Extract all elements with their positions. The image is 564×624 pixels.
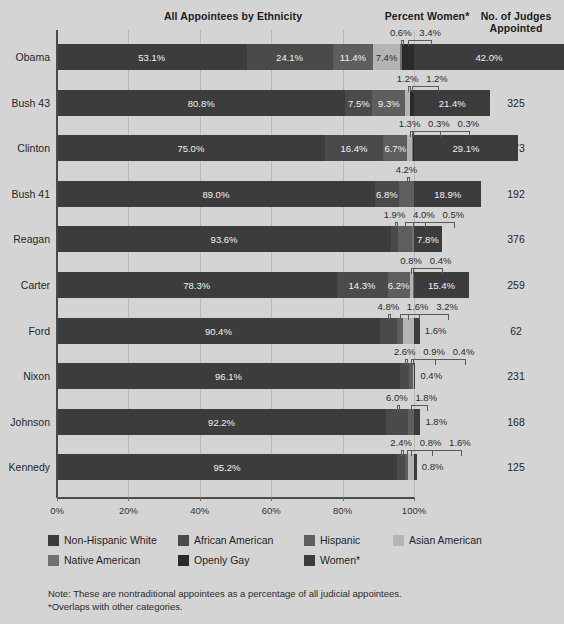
women-bar: 29.1% [414, 135, 518, 161]
women-bar: 15.4% [414, 272, 469, 298]
bar-segment-value: 14.3% [337, 280, 388, 291]
legend-swatch-icon [178, 535, 189, 546]
bar-segment-value: 24.1% [247, 52, 333, 63]
callout-leader-line [411, 450, 462, 456]
callout-leader-line [413, 131, 470, 137]
women-bar-value: 21.4% [414, 97, 490, 108]
bar-segment [399, 181, 414, 207]
bar-segment-value: 75.0% [57, 143, 325, 154]
bar-segment-value: 16.4% [325, 143, 384, 154]
bar-segment [386, 409, 407, 435]
x-axis-line [57, 497, 415, 499]
segment-callout-label: 1.2% [424, 73, 450, 84]
callout-leader-line [413, 268, 442, 274]
segment-callout-label: 2.6% [392, 346, 418, 357]
women-bar-value: 18.9% [414, 188, 481, 199]
bar-segment-value: 95.2% [57, 462, 397, 473]
tick-label-20%: 20% [108, 505, 148, 516]
judges-appointed-value: 125 [480, 461, 552, 473]
segment-callout-label: 4.0% [411, 209, 437, 220]
judges-appointed-value: 168 [480, 416, 552, 428]
tick-0% [57, 497, 58, 501]
segment-callout-label: 1.9% [381, 209, 407, 220]
segment-callout-label: 0.3% [455, 118, 481, 129]
segment-callout-label: 1.6% [447, 437, 473, 448]
segment-callout-label: 0.8% [398, 255, 424, 266]
legend-label: Hispanic [320, 534, 360, 546]
callout-leader-line [407, 177, 410, 183]
bar-segment-value: 7.4% [373, 52, 399, 63]
legend-swatch-icon [304, 535, 315, 546]
callout-leader-line [401, 450, 404, 456]
callout-leader-line [405, 359, 408, 365]
legend-swatch-icon [48, 535, 59, 546]
note-line-2: *Overlaps with other categories. [48, 600, 518, 613]
women-bar-value: 42.0% [414, 52, 564, 63]
bar-segment: 53.1% [57, 44, 247, 70]
tick-label-0%: 0% [37, 505, 77, 516]
callout-leader-line [388, 314, 391, 320]
legend-item-african-american[interactable]: African American [178, 534, 273, 546]
bar-segment-value: 96.1% [57, 371, 400, 382]
bar-row: Nixon23196.1%0.4%2.6%0.9%0.4% [0, 363, 553, 407]
tick-20% [128, 497, 129, 501]
bar-segment [402, 44, 414, 70]
tick-label-100%: 100% [394, 505, 434, 516]
legend-item-women[interactable]: Women* [304, 554, 360, 566]
callout-leader-line [408, 40, 432, 46]
bar-segment: 6.7% [383, 135, 407, 161]
bar-segment [391, 226, 398, 252]
women-bar-value: 1.8% [425, 416, 447, 427]
segment-callout-label: 1.8% [413, 392, 439, 403]
women-bar [414, 363, 415, 389]
note-line-1: Note: These are nontraditional appointee… [48, 587, 518, 600]
segment-callout-label: 0.6% [388, 27, 414, 38]
bar-segment: 6.2% [388, 272, 410, 298]
bar-segment: 11.4% [333, 44, 374, 70]
bar-row: Obama32953.1%24.1%11.4%7.4%42.0%0.6%3.4% [0, 44, 553, 88]
legend-item-openly-gay[interactable]: Openly Gay [178, 554, 249, 566]
bar-segment: 92.2% [57, 409, 386, 435]
chart-note: Note: These are nontraditional appointee… [48, 587, 518, 613]
legend-item-hispanic[interactable]: Hispanic [304, 534, 360, 546]
segment-callout-label: 6.0% [384, 392, 410, 403]
bar-segment: 6.8% [375, 181, 399, 207]
bar-segment [380, 318, 397, 344]
segment-callout-label: 0.5% [440, 209, 466, 220]
judges-appointed-value: 376 [480, 233, 552, 245]
legend-item-asian-american[interactable]: Asian American [393, 534, 482, 546]
legend-swatch-icon [178, 555, 189, 566]
women-bar-value: 15.4% [414, 280, 469, 291]
bar-segment-value: 7.5% [345, 97, 372, 108]
legend-label: Native American [64, 554, 140, 566]
women-bar: 18.9% [414, 181, 481, 207]
callout-leader-line [413, 359, 465, 365]
tick-label-40%: 40% [180, 505, 220, 516]
tick-40% [200, 497, 201, 501]
row-label-nixon: Nixon [0, 370, 50, 382]
segment-callout-label: 1.6% [404, 301, 430, 312]
callout-leader-line [408, 86, 411, 92]
legend-item-non-hispanic-white[interactable]: Non-Hispanic White [48, 534, 157, 546]
women-bar [414, 409, 420, 435]
bar-segment-value: 80.8% [57, 97, 345, 108]
bar-segment: 95.2% [57, 454, 397, 480]
bar-segment: 89.0% [57, 181, 375, 207]
segment-callout-label: 4.2% [393, 164, 419, 175]
row-label-johnson: Johnson [0, 416, 50, 428]
women-bar: 21.4% [414, 90, 490, 116]
judges-appointed-value: 62 [480, 325, 552, 337]
legend-item-native-american[interactable]: Native American [48, 554, 140, 566]
segment-callout-label: 3.4% [417, 27, 443, 38]
segment-callout-label: 0.8% [417, 437, 443, 448]
bar-segment-value: 6.7% [383, 143, 407, 154]
judges-appointed-value: 325 [480, 97, 552, 109]
bar-segment-value: 89.0% [57, 188, 375, 199]
tick-60% [271, 497, 272, 501]
segment-callout-label: 1.3% [396, 118, 422, 129]
legend-label: Women* [320, 554, 360, 566]
women-bar [414, 318, 420, 344]
legend-swatch-icon [304, 555, 315, 566]
women-bar-value: 29.1% [414, 143, 518, 154]
